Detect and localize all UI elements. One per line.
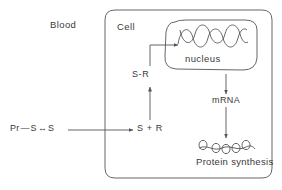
ribosome (242, 140, 250, 149)
arrow-complex-to-nucleus (150, 45, 178, 66)
label-precursor-molecule: Pr—S↔S (10, 124, 54, 133)
precursor-double-arrow: ↔ (37, 123, 48, 133)
label-nucleus: nucleus (185, 54, 221, 64)
label-steroid-receptor-complex: S-R (132, 70, 149, 79)
precursor-s1: S (31, 123, 37, 133)
precursor-prefix: Pr (10, 123, 20, 133)
precursor-bond-dash: — (20, 123, 31, 133)
label-blood: Blood (50, 20, 76, 30)
label-protein-synthesis: Protein synthesis (196, 157, 273, 167)
label-cell: Cell (117, 22, 135, 32)
dna-strand-a (178, 29, 247, 47)
label-steroid-plus-receptor: S + R (137, 124, 163, 133)
polyribosome-strand (199, 146, 255, 149)
ribosome (222, 144, 230, 153)
label-mrna: mRNA (212, 96, 240, 105)
ribosome (212, 143, 220, 152)
ribosome (199, 140, 207, 149)
precursor-s2: S (48, 123, 54, 133)
diagram-canvas: Blood Cell nucleus mRNA Protein synthesi… (0, 0, 282, 190)
cell-membrane-outline (105, 10, 272, 178)
